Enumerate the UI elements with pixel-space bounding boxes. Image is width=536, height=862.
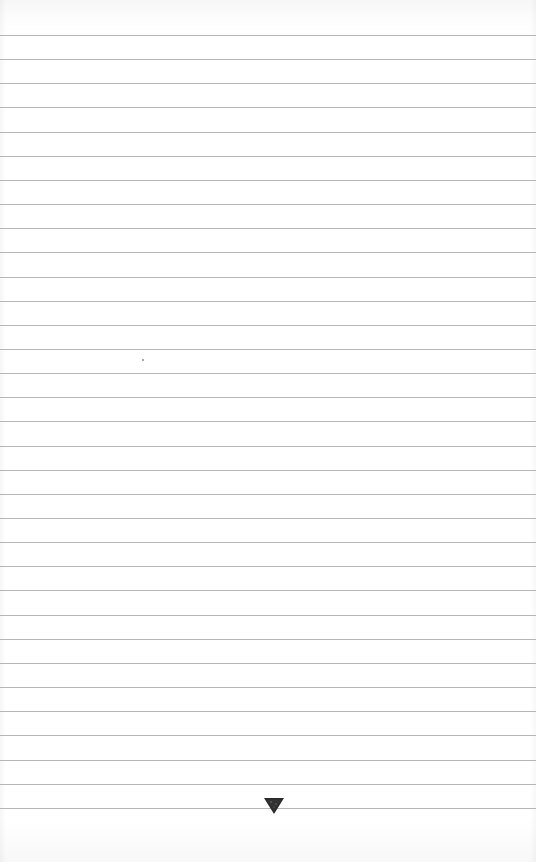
ruled-line bbox=[0, 421, 536, 422]
ruled-line bbox=[0, 566, 536, 567]
ruled-line bbox=[0, 639, 536, 640]
ruled-line bbox=[0, 35, 536, 36]
ruled-line bbox=[0, 59, 536, 60]
ruled-line bbox=[0, 252, 536, 253]
ruled-line bbox=[0, 615, 536, 616]
ruled-line bbox=[0, 156, 536, 157]
ruled-line bbox=[0, 760, 536, 761]
ruled-line bbox=[0, 132, 536, 133]
ruled-line bbox=[0, 542, 536, 543]
ruled-line bbox=[0, 735, 536, 736]
ruled-line bbox=[0, 180, 536, 181]
ruled-line bbox=[0, 373, 536, 374]
ruled-line bbox=[0, 784, 536, 785]
ruled-line bbox=[0, 349, 536, 350]
ruled-line bbox=[0, 446, 536, 447]
paper-speck bbox=[142, 359, 144, 361]
ruled-line bbox=[0, 83, 536, 84]
ruled-line bbox=[0, 301, 536, 302]
ruled-line bbox=[0, 494, 536, 495]
ruled-line bbox=[0, 277, 536, 278]
ruled-line bbox=[0, 663, 536, 664]
ruled-line bbox=[0, 590, 536, 591]
down-triangle-icon bbox=[264, 798, 284, 814]
ruled-line bbox=[0, 711, 536, 712]
ruled-line bbox=[0, 518, 536, 519]
lined-paper bbox=[0, 0, 536, 862]
ruled-line bbox=[0, 204, 536, 205]
ruled-line bbox=[0, 470, 536, 471]
ruled-line bbox=[0, 687, 536, 688]
ruled-line bbox=[0, 325, 536, 326]
ruled-line bbox=[0, 228, 536, 229]
ruled-line bbox=[0, 397, 536, 398]
ruled-line bbox=[0, 107, 536, 108]
